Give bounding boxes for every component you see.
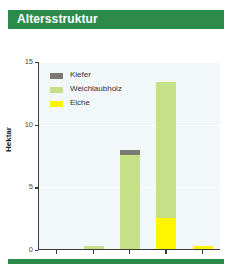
legend-label: Eiche (70, 98, 90, 107)
x-axis-tick (93, 250, 94, 254)
legend-label: Kiefer (70, 70, 91, 79)
y-axis-tick (35, 187, 38, 188)
y-axis-tick-label: 5 (29, 182, 33, 191)
chart-panel: Hektar Alter in Jahren KieferWeichlaubho… (8, 34, 224, 256)
bar-4 (156, 61, 176, 249)
bar-segment-eiche (156, 218, 176, 249)
y-axis-tick-label: 15 (25, 57, 33, 66)
x-axis-tick (56, 250, 57, 254)
x-axis-tick (129, 250, 130, 254)
y-axis-tick (35, 125, 38, 126)
y-axis-label: Hektar (4, 127, 13, 152)
legend-swatch-weichlaubholz (50, 87, 63, 93)
legend-swatch-eiche (50, 101, 63, 107)
x-axis-tick (165, 250, 166, 254)
y-axis-tick (35, 250, 38, 251)
y-axis-tick-label: 10 (25, 120, 33, 129)
plot-area (38, 62, 220, 250)
bar-5 (193, 61, 213, 249)
x-axis-tick (202, 250, 203, 254)
chart-page: Altersstruktur Hektar Alter in Jahren Ki… (0, 0, 232, 269)
bar-3 (120, 61, 140, 249)
header-banner: Altersstruktur (8, 10, 224, 29)
legend-label: Weichlaubholz (70, 84, 122, 93)
bar-segment-kiefer (120, 150, 140, 155)
bar-segment-eiche (193, 246, 213, 249)
y-axis-tick (35, 62, 38, 63)
bar-segment-weichlaubholz (84, 246, 104, 249)
page-title: Altersstruktur (17, 12, 98, 26)
y-axis-tick-label: 0 (29, 245, 33, 254)
footer-banner (8, 259, 224, 264)
bar-segment-weichlaubholz (156, 82, 176, 217)
bar-segment-weichlaubholz (120, 155, 140, 249)
legend-swatch-kiefer (50, 73, 63, 79)
